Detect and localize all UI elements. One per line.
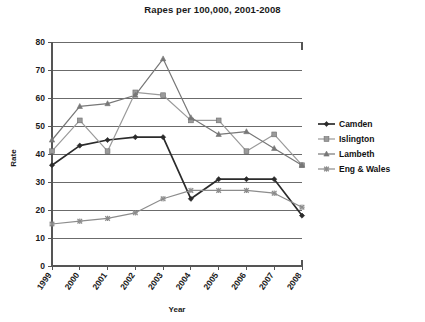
legend-item-eng-wales[interactable]: Eng & Wales xyxy=(318,164,390,174)
data-point-marker-cross xyxy=(272,191,277,196)
data-point-marker-cross xyxy=(133,210,138,215)
series-eng-wales xyxy=(49,188,304,227)
x-axis-tick-labels: 1999200020012002200320042005200620072008 xyxy=(35,270,304,291)
x-tick-label: 2003 xyxy=(146,270,165,291)
data-point-marker-square xyxy=(105,149,110,154)
y-tick-label: 60 xyxy=(36,93,46,103)
series-lambeth xyxy=(49,56,304,167)
data-point-marker-diamond xyxy=(324,121,329,126)
chart-legend: CamdenIslingtonLambethEng & Wales xyxy=(318,119,390,174)
data-point-marker-square xyxy=(161,93,166,98)
x-tick-label: 2005 xyxy=(201,270,220,291)
data-point-marker-triangle xyxy=(272,146,277,151)
x-tick-label: 2008 xyxy=(285,270,304,291)
y-tick-label: 0 xyxy=(40,261,45,271)
series-line xyxy=(52,59,302,165)
data-point-marker-cross xyxy=(324,166,329,171)
x-axis-title: Year xyxy=(169,305,186,314)
axis-ticks xyxy=(48,42,302,270)
legend-item-camden[interactable]: Camden xyxy=(318,119,373,129)
y-tick-label: 50 xyxy=(36,121,46,131)
data-point-marker-cross xyxy=(244,188,249,193)
legend-item-islington[interactable]: Islington xyxy=(318,134,374,144)
data-point-marker-cross xyxy=(160,196,165,201)
data-point-marker-square xyxy=(77,118,82,123)
y-axis-tick-labels: 01020304050607080 xyxy=(36,37,46,271)
data-point-marker-diamond xyxy=(105,137,110,142)
data-point-marker-square xyxy=(216,118,221,123)
data-point-marker-square xyxy=(272,132,277,137)
series-camden xyxy=(49,135,304,219)
data-point-marker-cross xyxy=(105,216,110,221)
data-point-marker-cross xyxy=(77,219,82,224)
data-point-marker-square xyxy=(324,137,329,142)
data-point-marker-diamond xyxy=(133,135,138,140)
chart-container: Rapes per 100,000, 2001-2008 01020304050… xyxy=(0,0,425,322)
data-point-marker-square xyxy=(50,149,55,154)
data-point-marker-diamond xyxy=(244,177,249,182)
x-tick-label: 2000 xyxy=(62,270,81,291)
data-point-marker-cross xyxy=(299,205,304,210)
x-tick-label: 1999 xyxy=(35,270,54,291)
series-islington xyxy=(50,90,305,168)
series-line xyxy=(52,137,302,215)
line-chart-plot: 01020304050607080 1999200020012002200320… xyxy=(0,0,425,322)
x-tick-label: 2002 xyxy=(118,270,137,291)
x-tick-label: 2006 xyxy=(229,270,248,291)
x-tick-label: 2001 xyxy=(90,270,109,291)
data-point-marker-cross xyxy=(49,221,54,226)
y-tick-label: 40 xyxy=(36,149,46,159)
gridlines xyxy=(52,42,302,266)
y-tick-label: 10 xyxy=(36,233,46,243)
data-point-marker-square xyxy=(244,149,249,154)
data-point-marker-triangle xyxy=(188,115,193,120)
legend-item-label: Camden xyxy=(339,119,373,129)
data-point-marker-cross xyxy=(188,188,193,193)
x-tick-label: 2004 xyxy=(173,270,192,291)
y-axis-title: Rate xyxy=(9,149,18,167)
series-line xyxy=(52,190,302,224)
data-point-marker-diamond xyxy=(161,135,166,140)
data-series-group xyxy=(49,56,304,227)
legend-item-label: Lambeth xyxy=(339,149,374,159)
legend-item-lambeth[interactable]: Lambeth xyxy=(318,149,374,159)
legend-item-label: Islington xyxy=(339,134,374,144)
y-tick-label: 20 xyxy=(36,205,46,215)
legend-item-label: Eng & Wales xyxy=(339,164,390,174)
data-point-marker-triangle xyxy=(160,56,165,61)
data-point-marker-cross xyxy=(216,188,221,193)
x-tick-label: 2007 xyxy=(257,270,276,291)
y-tick-label: 70 xyxy=(36,65,46,75)
y-tick-label: 80 xyxy=(36,37,46,47)
y-tick-label: 30 xyxy=(36,177,46,187)
